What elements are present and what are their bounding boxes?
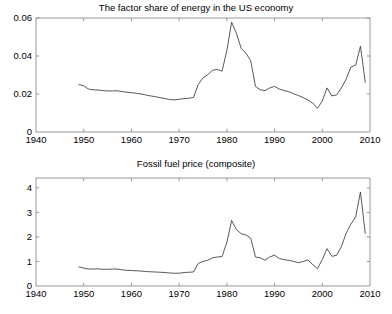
x-tick-label: 1960: [121, 288, 142, 299]
y-tick-label: 0: [27, 280, 32, 291]
x-tick-label: 2000: [312, 288, 333, 299]
x-tick-label: 1990: [264, 288, 285, 299]
plot-box: [36, 178, 370, 286]
x-tick-label: 1960: [121, 134, 142, 145]
data-series-line: [79, 22, 365, 108]
y-tick-label: 1: [27, 256, 32, 267]
x-tick-label: 2000: [312, 134, 333, 145]
y-tick-label: 0.04: [14, 50, 33, 61]
y-tick-label: 0.02: [14, 88, 33, 99]
chart-panel-factor-share: The factor share of energy in the US eco…: [0, 0, 392, 158]
x-tick-label: 1950: [73, 134, 94, 145]
x-tick-label: 1950: [73, 288, 94, 299]
y-tick-label: 0.06: [14, 12, 33, 23]
x-tick-label: 1980: [216, 134, 237, 145]
y-tick-label: 0: [27, 126, 32, 137]
y-tick-label: 4: [27, 182, 32, 193]
plot-box: [36, 18, 370, 132]
x-tick-label: 2010: [359, 288, 380, 299]
y-tick-label: 3: [27, 207, 32, 218]
x-tick-label: 1970: [169, 288, 190, 299]
x-tick-label: 1980: [216, 288, 237, 299]
plot-area-top: 1940195019601970198019902000201000.020.0…: [0, 0, 392, 158]
plot-area-bottom: 1940195019601970198019902000201001234: [0, 156, 392, 314]
y-tick-label: 2: [27, 231, 32, 242]
x-tick-label: 1970: [169, 134, 190, 145]
data-series-line: [79, 192, 365, 273]
chart-panel-fossil-price: Fossil fuel price (composite) 1940195019…: [0, 156, 392, 314]
x-tick-label: 1990: [264, 134, 285, 145]
figure-container: The factor share of energy in the US eco…: [0, 0, 392, 314]
x-tick-label: 2010: [359, 134, 380, 145]
